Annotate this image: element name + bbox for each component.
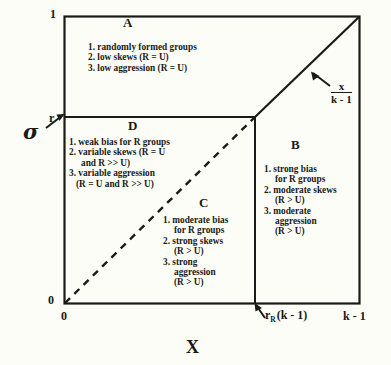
region-a-items: 1. randomly formed groups 2. low skews (… bbox=[88, 42, 197, 73]
x-tick-kminus1: k - 1 bbox=[343, 310, 366, 323]
list-item: 3. moderate bbox=[264, 206, 337, 216]
x-axis-label: X bbox=[186, 337, 199, 357]
x-tick-rr-suffix: (k - 1) bbox=[277, 309, 308, 322]
list-item: (R > U) bbox=[264, 226, 337, 236]
list-item: and R >> U) bbox=[69, 158, 170, 168]
annotation-numerator: x bbox=[331, 80, 352, 92]
list-item: 3. strong bbox=[163, 257, 228, 267]
x-tick-rr: rR(k - 1) bbox=[265, 309, 307, 324]
annotation-denominator: k - 1 bbox=[331, 92, 352, 105]
y-axis-label: σ bbox=[23, 120, 38, 144]
list-item: (R > U) bbox=[264, 195, 337, 205]
list-item: 3. low aggression (R = U) bbox=[88, 63, 197, 73]
region-label-d: D bbox=[128, 119, 137, 134]
list-item: for R groups bbox=[264, 174, 337, 184]
region-d-items: 1. weak bias for R groups 2. variable sk… bbox=[69, 137, 170, 189]
list-item: aggression bbox=[264, 216, 337, 226]
list-item: aggression bbox=[163, 267, 228, 277]
list-item: 1. moderate bias bbox=[163, 215, 228, 225]
list-item: 2. strong skews bbox=[163, 236, 228, 246]
y-tick-0: 0 bbox=[48, 294, 54, 307]
region-c-items: 1. moderate bias for R groups 2. strong … bbox=[163, 215, 228, 288]
x-tick-rr-subscript: R bbox=[270, 315, 275, 324]
list-item: (R > U) bbox=[163, 246, 228, 256]
x-tick-0: 0 bbox=[61, 310, 67, 323]
list-item: 2. low skews (R = U) bbox=[88, 52, 197, 62]
list-item: 1. randomly formed groups bbox=[88, 42, 197, 52]
y-tick-r: r bbox=[49, 112, 54, 125]
y-tick-1: 1 bbox=[50, 8, 56, 21]
annotation-fraction: x k - 1 bbox=[331, 80, 352, 106]
list-item: 1. strong bias bbox=[264, 164, 337, 174]
region-label-c: C bbox=[199, 196, 208, 211]
figure-canvas: σ 1 r 0 X 0 rR(k - 1) k - 1 x k - 1 A 1.… bbox=[0, 0, 391, 365]
list-item: 1. weak bias for R groups bbox=[69, 137, 170, 147]
list-item: (R > U) bbox=[163, 277, 228, 287]
region-b-items: 1. strong bias for R groups 2. moderate … bbox=[264, 164, 337, 237]
list-item: 2. variable skews (R = U bbox=[69, 147, 170, 157]
tick-arrow-rr-icon bbox=[255, 303, 266, 318]
list-item: (R = U and R >> U) bbox=[69, 179, 170, 189]
list-item: 3. variable aggression bbox=[69, 168, 170, 178]
list-item: for R groups bbox=[163, 225, 228, 235]
region-label-a: A bbox=[123, 16, 132, 31]
list-item: 2. moderate skews bbox=[264, 185, 337, 195]
region-label-b: B bbox=[291, 138, 300, 153]
annotation-arrow-icon bbox=[311, 72, 330, 87]
